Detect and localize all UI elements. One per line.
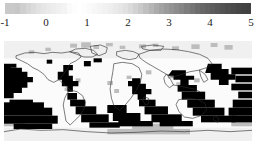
colorbar-tick-0: 0 xyxy=(43,14,49,31)
map-canvas xyxy=(4,41,252,141)
colorbar-tick-4: 4 xyxy=(207,14,213,31)
colorbar-gradient xyxy=(5,3,251,14)
colorbar-tick-2: 2 xyxy=(125,14,131,31)
map-panel xyxy=(0,36,256,149)
colorbar-tick-1: 1 xyxy=(84,14,90,31)
figure-root: -1012345 xyxy=(0,0,256,149)
colorbar-segment xyxy=(246,3,251,14)
colorbar-tick-neg1: -1 xyxy=(0,14,9,31)
colorbar-tick-5: 5 xyxy=(248,14,254,31)
world-map xyxy=(4,41,252,141)
colorbar-tick-labels: -1012345 xyxy=(5,14,251,32)
colorbar-tick-3: 3 xyxy=(166,14,172,31)
colorbar-panel: -1012345 xyxy=(0,0,256,32)
